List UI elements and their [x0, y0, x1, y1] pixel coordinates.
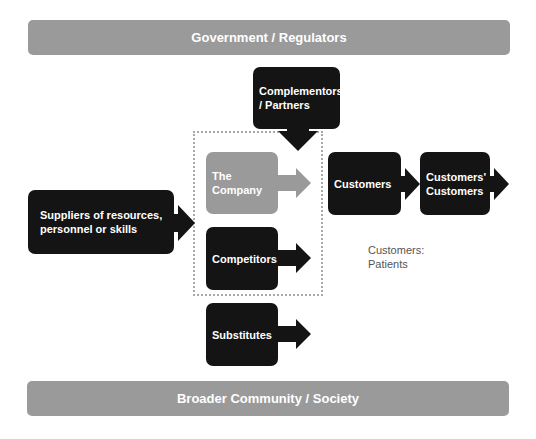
banner-label: Broader Community / Society [177, 391, 359, 406]
node-label: Complementors / Partners [259, 84, 343, 112]
node-label: Customers [334, 177, 391, 191]
node-label: The Company [212, 169, 278, 197]
customers-customers-box: Customers' Customers [420, 152, 490, 215]
the-company-box: The Company [206, 152, 278, 214]
customers-patients-note: Customers: Patients [368, 243, 424, 271]
substitutes-box: Substitutes [206, 303, 278, 366]
banner-label: Government / Regulators [191, 30, 346, 45]
node-label: Customers' Customers [426, 170, 486, 198]
competitors-box: Competitors [206, 227, 278, 290]
suppliers-box: Suppliers of resources, personnel or ski… [28, 190, 174, 254]
arrow-down-icon [278, 125, 318, 153]
node-label: Suppliers of resources, personnel or ski… [40, 208, 162, 236]
arrow-right-icon [274, 243, 312, 273]
government-regulators-banner: Government / Regulators [28, 20, 510, 55]
arrow-right-icon [274, 319, 312, 349]
arrow-right-icon [274, 168, 312, 198]
node-label: Competitors [212, 252, 277, 266]
customers-box: Customers [328, 152, 401, 215]
complementors-partners-box: Complementors / Partners [253, 67, 340, 129]
broader-community-banner: Broader Community / Society [27, 381, 509, 416]
node-label: Substitutes [212, 328, 272, 342]
